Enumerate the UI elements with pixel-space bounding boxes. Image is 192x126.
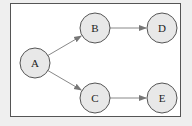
node-label: D bbox=[158, 22, 166, 34]
node-e: E bbox=[147, 83, 177, 113]
node-a: A bbox=[20, 48, 50, 78]
graph-canvas: ABCDE bbox=[0, 0, 192, 126]
node-c: C bbox=[80, 83, 110, 113]
node-b: B bbox=[80, 13, 110, 43]
node-d: D bbox=[147, 13, 177, 43]
node-label: E bbox=[159, 92, 166, 104]
edge-a-b bbox=[48, 36, 81, 55]
node-label: A bbox=[31, 57, 39, 69]
node-label: C bbox=[91, 92, 98, 104]
edge-a-c bbox=[48, 71, 81, 90]
node-label: B bbox=[91, 22, 98, 34]
